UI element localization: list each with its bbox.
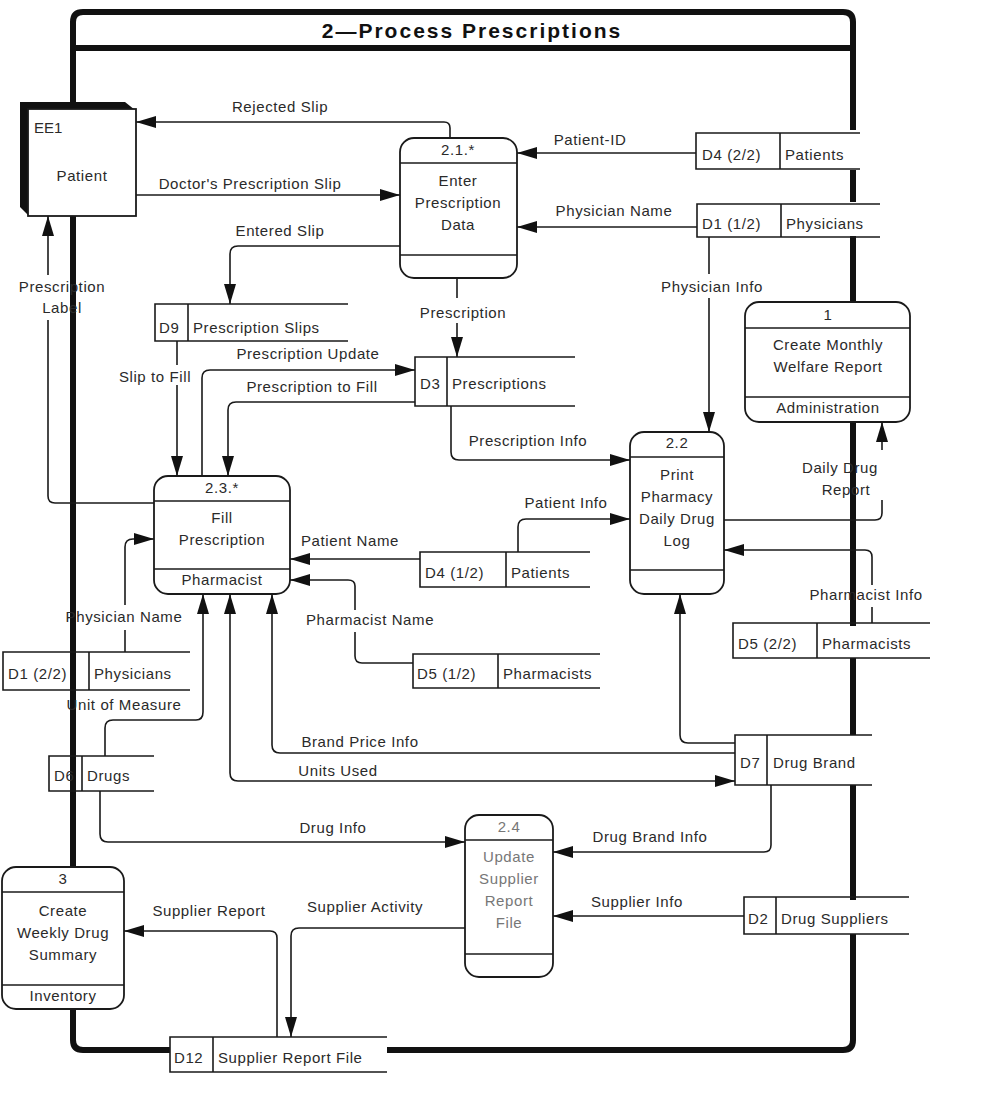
process-1[interactable]: 1 Create Monthly Welfare Report Administ… — [745, 302, 910, 422]
store-id: D1 (2/2) — [8, 665, 67, 682]
data-store-d5-2[interactable]: D5 (2/2) Pharmacists — [733, 623, 930, 658]
store-name: Patients — [511, 564, 570, 581]
svg-text:Drug Info: Drug Info — [299, 819, 366, 836]
svg-text:Prescription Update: Prescription Update — [236, 345, 379, 362]
process-name-line: Welfare Report — [774, 358, 883, 375]
process-name-line: Report — [485, 892, 534, 909]
flow-patient-name: Patient Name — [290, 532, 420, 559]
svg-text:Patient Info: Patient Info — [524, 494, 607, 511]
svg-text:Slip to Fill: Slip to Fill — [119, 368, 191, 385]
flow-patient-info: Patient Info — [518, 494, 630, 552]
store-id: D4 (2/2) — [702, 146, 761, 163]
process-actor: Inventory — [29, 987, 96, 1004]
svg-text:Daily Drug: Daily Drug — [802, 459, 878, 476]
svg-text:Entered Slip: Entered Slip — [236, 222, 325, 239]
svg-text:Prescription: Prescription — [420, 304, 506, 321]
process-id: 3 — [59, 870, 68, 887]
flow-entered-slip: Entered Slip — [230, 222, 400, 304]
data-store-d5-1[interactable]: D5 (1/2) Pharmacists — [413, 654, 600, 688]
flow-supplier-report: Supplier Report — [124, 902, 277, 1037]
store-id: D6 — [54, 767, 74, 784]
process-name-line: Enter — [439, 172, 478, 189]
process-3[interactable]: 3 Create Weekly Drug Summary Inventory — [2, 867, 124, 1009]
svg-text:Rejected Slip: Rejected Slip — [232, 98, 328, 115]
process-name-line: Weekly Drug — [17, 924, 109, 941]
store-id: D7 — [740, 754, 760, 771]
svg-text:Prescription: Prescription — [19, 278, 105, 295]
flow-supplier-activity: Supplier Activity — [291, 898, 465, 1037]
svg-text:Physician Info: Physician Info — [661, 278, 763, 295]
store-id: D1 (1/2) — [702, 215, 761, 232]
flow-patient-id: Patient-ID — [517, 131, 696, 153]
data-store-d4-1[interactable]: D4 (1/2) Patients — [420, 552, 590, 587]
process-name-line: Log — [664, 532, 691, 549]
data-store-d6[interactable]: D6 Drugs — [49, 756, 154, 791]
store-id: D9 — [159, 319, 179, 336]
process-actor: Administration — [776, 399, 879, 416]
entity-name: Patient — [57, 167, 108, 184]
data-store-d3[interactable]: D3 Prescriptions — [415, 357, 575, 406]
process-2-2[interactable]: 2.2 Print Pharmacy Daily Drug Log — [630, 432, 724, 594]
process-id: 1 — [824, 306, 833, 323]
external-entity-patient[interactable]: EE1 Patient — [20, 102, 136, 216]
data-store-d7[interactable]: D7 Drug Brand — [735, 735, 872, 785]
process-name-line: Data — [441, 216, 475, 233]
svg-text:Units Used: Units Used — [298, 762, 377, 779]
process-name-line: Daily Drug — [639, 510, 715, 527]
store-id: D5 (2/2) — [738, 635, 797, 652]
flow-drug-info: Drug Info — [100, 791, 465, 842]
data-store-d9[interactable]: D9 Prescription Slips — [155, 304, 348, 341]
store-id: D3 — [420, 375, 440, 392]
process-name-line: Prescription — [179, 531, 265, 548]
flow-pharmacist-name: Pharmacist Name — [290, 580, 434, 663]
data-store-d1-2[interactable]: D1 (2/2) Physicians — [3, 652, 190, 690]
flow-prescription-label: Prescription Label — [19, 216, 154, 503]
store-id: D4 (1/2) — [425, 564, 484, 581]
flow-physician-name-top: Physician Name — [517, 202, 697, 227]
svg-text:Physician Name: Physician Name — [66, 608, 183, 625]
flow-rejected-slip: Rejected Slip — [136, 98, 450, 138]
svg-text:Pharmacist Info: Pharmacist Info — [809, 586, 922, 603]
svg-text:Brand Price Info: Brand Price Info — [301, 733, 418, 750]
process-2-1[interactable]: 2.1.* Enter Prescription Data — [400, 138, 517, 278]
store-name: Pharmacists — [822, 635, 911, 652]
data-store-d2[interactable]: D2 Drug Suppliers — [744, 897, 909, 934]
process-name-line: Supplier — [479, 870, 539, 887]
flow-drug-brand-info: Drug Brand Info — [553, 785, 771, 852]
data-store-d4-2[interactable]: D4 (2/2) Patients — [696, 133, 860, 169]
svg-text:Unit of Measure: Unit of Measure — [67, 696, 182, 713]
data-store-d1-1[interactable]: D1 (1/2) Physicians — [697, 204, 880, 237]
store-id: D12 — [174, 1049, 203, 1066]
svg-text:Patient Name: Patient Name — [301, 532, 399, 549]
data-store-d12[interactable]: D12 Supplier Report File — [170, 1037, 387, 1072]
store-name: Supplier Report File — [218, 1049, 363, 1066]
svg-text:Doctor's Prescription Slip: Doctor's Prescription Slip — [159, 175, 342, 192]
process-name-line: File — [496, 914, 523, 931]
process-name-line: Prescription — [415, 194, 501, 211]
process-id: 2.4 — [498, 818, 521, 835]
store-name: Prescription Slips — [193, 319, 320, 336]
flow-supplier-info: Supplier Info — [553, 893, 744, 916]
svg-text:Pharmacist Name: Pharmacist Name — [306, 611, 434, 628]
process-id: 2.1.* — [441, 141, 475, 158]
svg-text:Physician Name: Physician Name — [556, 202, 673, 219]
store-name: Patients — [785, 146, 844, 163]
store-name: Pharmacists — [503, 665, 592, 682]
process-name-line: Create — [39, 902, 88, 919]
store-id: D2 — [748, 910, 768, 927]
flow-prescription-info: Prescription Info — [451, 406, 630, 460]
store-name: Drugs — [87, 767, 130, 784]
svg-text:Prescription Info: Prescription Info — [469, 432, 588, 449]
svg-text:Supplier Info: Supplier Info — [591, 893, 683, 910]
flow-slip-to-fill: Slip to Fill — [119, 341, 191, 476]
process-actor: Pharmacist — [181, 571, 262, 588]
process-2-3[interactable]: 2.3.* Fill Prescription Pharmacist — [154, 476, 290, 594]
store-name: Physicians — [786, 215, 864, 232]
store-id: D5 (1/2) — [417, 665, 476, 682]
process-id: 2.3.* — [205, 479, 239, 496]
process-2-4[interactable]: 2.4 Update Supplier Report File — [465, 815, 553, 977]
svg-text:Supplier Activity: Supplier Activity — [307, 898, 423, 915]
store-name: Prescriptions — [452, 375, 547, 392]
flow-prescription-update: Prescription Update — [202, 345, 415, 476]
svg-text:Patient-ID: Patient-ID — [554, 131, 627, 148]
